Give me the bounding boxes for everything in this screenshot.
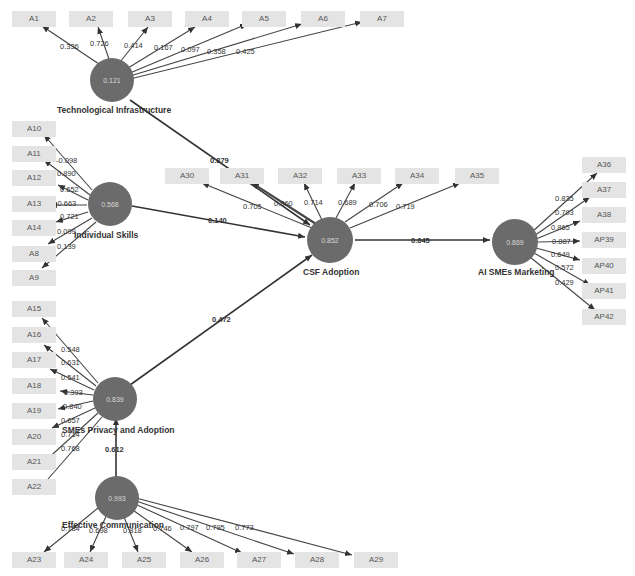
svg-text:0.097: 0.097 xyxy=(181,45,200,54)
svg-text:SMEs Privacy and Adoption: SMEs Privacy and Adoption xyxy=(62,425,175,435)
svg-text:0.865: 0.865 xyxy=(551,223,570,232)
privacy-weights: 0.548 0.631 0.541 0.393 0.840 0.657 0.71… xyxy=(61,345,83,453)
tech-weights: 0.336 0.726 0.414 0.167 0.097 0.358 0.42… xyxy=(60,39,255,56)
indicator-A5[interactable]: A5 xyxy=(242,11,286,27)
svg-text:0.541: 0.541 xyxy=(61,373,80,382)
tech-loadings xyxy=(42,22,362,79)
svg-text:0.414: 0.414 xyxy=(124,41,143,50)
indicator-A12[interactable]: A12 xyxy=(12,170,56,186)
svg-text:0.336: 0.336 xyxy=(60,42,79,51)
svg-text:0.121: 0.121 xyxy=(103,77,121,84)
construct-csf[interactable]: 0.852 CSF Adoption xyxy=(303,217,359,277)
svg-text:0.768: 0.768 xyxy=(61,444,80,453)
svg-text:0.645: 0.645 xyxy=(411,236,430,245)
svg-text:0.840: 0.840 xyxy=(63,402,82,411)
svg-text:0.548: 0.548 xyxy=(61,345,80,354)
indicator-A24[interactable]: A24 xyxy=(64,552,108,568)
svg-text:0.140: 0.140 xyxy=(208,216,227,225)
structural-paths xyxy=(116,100,490,478)
indicator-A13[interactable]: A13 xyxy=(12,196,56,212)
indicator-A37[interactable]: A37 xyxy=(582,182,626,198)
indicator-A14[interactable]: A14 xyxy=(12,220,56,236)
svg-text:0.568: 0.568 xyxy=(101,201,119,208)
indicator-A33[interactable]: A33 xyxy=(337,168,381,184)
indicator-A18[interactable]: A18 xyxy=(12,378,56,394)
svg-text:0.839: 0.839 xyxy=(106,396,124,403)
indicator-AP40[interactable]: AP40 xyxy=(582,258,626,274)
svg-text:AI SMEs Marketing: AI SMEs Marketing xyxy=(478,267,555,277)
indicator-A23[interactable]: A23 xyxy=(12,552,56,568)
svg-text:0.689: 0.689 xyxy=(338,198,357,207)
svg-text:0.721: 0.721 xyxy=(60,212,79,221)
svg-text:0.393: 0.393 xyxy=(64,388,83,397)
svg-text:0.719: 0.719 xyxy=(396,202,415,211)
indicator-A9[interactable]: A9 xyxy=(12,270,56,286)
indicator-A4[interactable]: A4 xyxy=(185,11,229,27)
svg-text:0.726: 0.726 xyxy=(90,39,109,48)
svg-text:Individual Skills: Individual Skills xyxy=(74,230,139,240)
indicator-A26[interactable]: A26 xyxy=(180,552,224,568)
svg-text:0.425: 0.425 xyxy=(236,47,255,56)
indicator-A8[interactable]: A8 xyxy=(12,246,56,262)
svg-text:0.472: 0.472 xyxy=(212,315,231,324)
svg-text:0.139: 0.139 xyxy=(57,242,76,251)
construct-tech[interactable]: 0.121 Technological Infrastructure xyxy=(57,58,171,115)
indicator-A11[interactable]: A11 xyxy=(12,146,56,162)
indicator-A15[interactable]: A15 xyxy=(12,301,56,317)
indicator-A36[interactable]: A36 xyxy=(582,157,626,173)
indicator-AP39[interactable]: AP39 xyxy=(582,232,626,248)
svg-text:0.706: 0.706 xyxy=(369,200,388,209)
indicator-A27[interactable]: A27 xyxy=(237,552,281,568)
svg-text:0.852: 0.852 xyxy=(321,237,339,244)
svg-text:0.657: 0.657 xyxy=(61,416,80,425)
svg-text:-0.663: -0.663 xyxy=(55,199,76,208)
svg-text:0.993: 0.993 xyxy=(108,495,126,502)
svg-text:0.167: 0.167 xyxy=(154,43,173,52)
svg-text:0.879: 0.879 xyxy=(210,156,229,165)
indicator-A6[interactable]: A6 xyxy=(301,11,345,27)
svg-text:0.795: 0.795 xyxy=(206,523,225,532)
svg-text:0.652: 0.652 xyxy=(60,185,79,194)
indicator-A30[interactable]: A30 xyxy=(165,168,209,184)
svg-text:0.572: 0.572 xyxy=(555,263,574,272)
indicator-A3[interactable]: A3 xyxy=(128,11,172,27)
construct-ai[interactable]: 0.869 AI SMEs Marketing xyxy=(478,219,555,277)
indicator-A17[interactable]: A17 xyxy=(12,352,56,368)
construct-comm[interactable]: 0.993 Effective Communication xyxy=(62,476,164,530)
svg-text:0.887: 0.887 xyxy=(552,237,571,246)
svg-text:0.714: 0.714 xyxy=(304,198,323,207)
svg-text:0.099: 0.099 xyxy=(57,227,76,236)
indicator-A20[interactable]: A20 xyxy=(12,429,56,445)
svg-text:Effective Communication: Effective Communication xyxy=(62,520,164,530)
indicator-A10[interactable]: A10 xyxy=(12,121,56,137)
svg-text:0.649: 0.649 xyxy=(551,250,570,259)
pls-sem-diagram: 0.336 0.726 0.414 0.167 0.097 0.358 0.42… xyxy=(0,0,635,576)
indicator-AP41[interactable]: AP41 xyxy=(582,283,626,299)
svg-text:-0.098: -0.098 xyxy=(56,156,77,165)
indicator-A16[interactable]: A16 xyxy=(12,327,56,343)
svg-text:0.835: 0.835 xyxy=(555,194,574,203)
indicator-A34[interactable]: A34 xyxy=(395,168,439,184)
csf-weights: 0.705 0.860 0.714 0.689 0.706 0.719 xyxy=(243,198,415,211)
svg-text:0.869: 0.869 xyxy=(506,239,524,246)
indicator-A31[interactable]: A31 xyxy=(220,168,264,184)
indicator-A22[interactable]: A22 xyxy=(12,479,56,495)
indicator-AP42[interactable]: AP42 xyxy=(582,309,626,325)
indicator-A19[interactable]: A19 xyxy=(12,403,56,419)
svg-text:Technological Infrastructure: Technological Infrastructure xyxy=(57,105,171,115)
indicator-A29[interactable]: A29 xyxy=(354,552,398,568)
indicator-A21[interactable]: A21 xyxy=(12,454,56,470)
indicator-A38[interactable]: A38 xyxy=(582,207,626,223)
svg-text:0.612: 0.612 xyxy=(105,445,124,454)
svg-text:0.429: 0.429 xyxy=(555,278,574,287)
indicator-A2[interactable]: A2 xyxy=(69,11,113,27)
indicator-A7[interactable]: A7 xyxy=(360,11,404,27)
indicator-A28[interactable]: A28 xyxy=(295,552,339,568)
indicator-A1[interactable]: A1 xyxy=(12,11,56,27)
indicator-A35[interactable]: A35 xyxy=(455,168,499,184)
indicator-A32[interactable]: A32 xyxy=(278,168,322,184)
svg-text:CSF Adoption: CSF Adoption xyxy=(303,267,359,277)
svg-text:0.358: 0.358 xyxy=(207,47,226,56)
svg-text:0.890: 0.890 xyxy=(57,169,76,178)
indicator-A25[interactable]: A25 xyxy=(122,552,166,568)
